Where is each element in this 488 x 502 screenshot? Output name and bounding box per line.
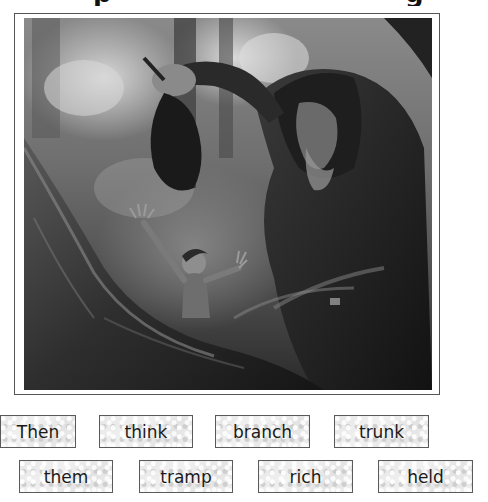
word-card-then[interactable]: Then xyxy=(0,415,76,448)
illustration-art xyxy=(24,18,432,390)
word-card-rich[interactable]: rich xyxy=(258,460,353,493)
word-card-held[interactable]: held xyxy=(378,460,473,493)
word-card-tramp[interactable]: tramp xyxy=(139,460,233,493)
word-card-think[interactable]: think xyxy=(99,415,193,448)
clipped-heading: p g xyxy=(0,0,488,6)
story-illustration xyxy=(24,18,432,390)
heading-fragment: g xyxy=(405,0,424,6)
heading-fragment: p xyxy=(93,0,112,6)
word-card-trunk[interactable]: trunk xyxy=(334,415,429,448)
word-card-them[interactable]: them xyxy=(19,460,113,493)
word-card-branch[interactable]: branch xyxy=(215,415,310,448)
